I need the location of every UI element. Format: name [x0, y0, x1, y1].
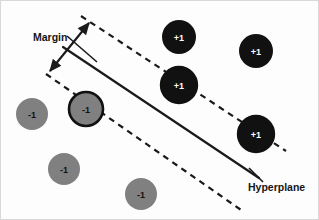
data-point-support-vector[interactable]: +1 — [161, 67, 197, 103]
point-marker-negative[interactable] — [16, 98, 48, 130]
point-marker-positive[interactable] — [239, 34, 273, 68]
svm-plot-canvas: +1 +1 +1 +1 -1 -1 — [1, 1, 319, 220]
data-point-support-vector[interactable]: +1 — [238, 116, 274, 152]
data-point[interactable]: -1 — [48, 153, 80, 185]
point-marker-negative[interactable] — [48, 153, 80, 185]
data-point[interactable]: +1 — [239, 34, 273, 68]
point-marker-negative-support[interactable] — [69, 92, 103, 126]
point-marker-negative[interactable] — [125, 178, 157, 210]
data-point-support-vector[interactable]: -1 — [69, 92, 103, 126]
hyperplane-label: Hyperplane — [248, 181, 305, 193]
data-point[interactable]: +1 — [162, 20, 196, 54]
margin-label: Margin — [33, 31, 67, 43]
point-marker-positive[interactable] — [162, 20, 196, 54]
data-point[interactable]: -1 — [16, 98, 48, 130]
point-marker-positive-support[interactable] — [238, 116, 274, 152]
svm-diagram: +1 +1 +1 +1 -1 -1 — [0, 0, 319, 220]
data-point[interactable]: -1 — [125, 178, 157, 210]
point-marker-positive-support[interactable] — [161, 67, 197, 103]
